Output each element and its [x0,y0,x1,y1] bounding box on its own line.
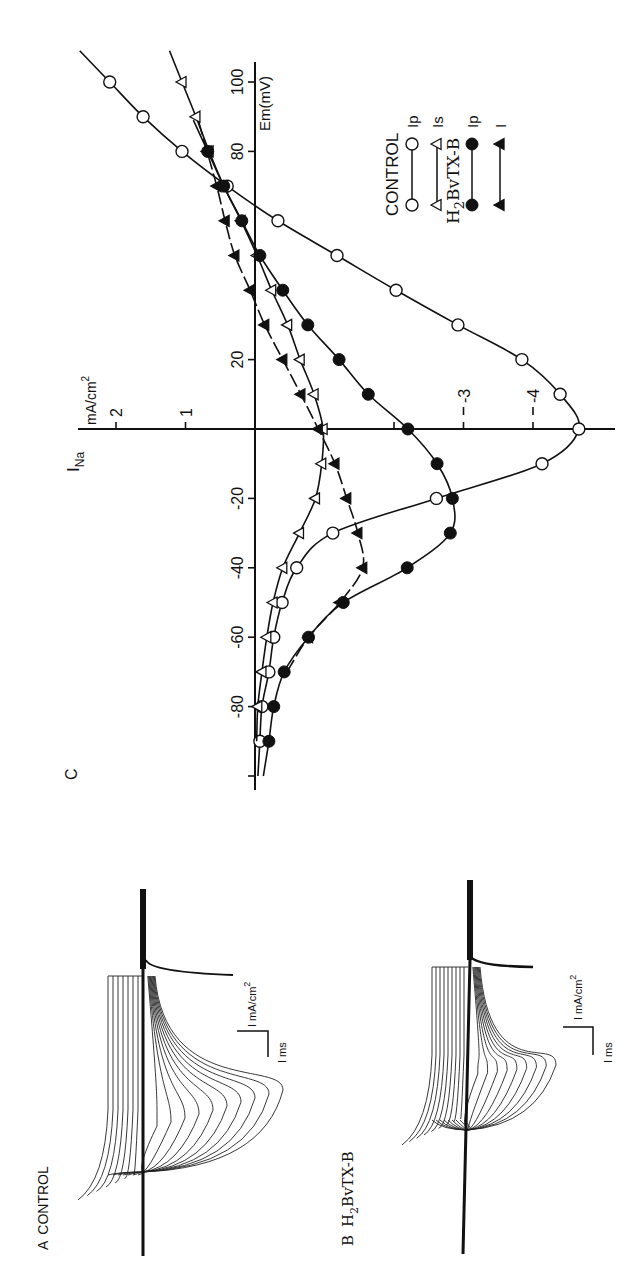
scale-current-label: I mA/cm2 [242,982,258,1027]
y-axis-label: INa [64,452,87,472]
panel-b-traces: I mA/cm2 I ms BH2BvTX-B [339,880,614,1254]
y-axis-units: mA/cm2 [80,375,99,425]
voltage-tick-label: -80 [229,695,246,718]
legend-label: I [492,124,509,128]
voltage-tick-label: -20 [229,487,246,510]
panel-a-traces: I mA/cm2 I ms ACONTROL [35,889,288,1256]
legend-item: I [492,124,509,211]
current-tick-label: -3 [456,389,473,403]
legend-label: Is [429,116,446,128]
legend: CONTROL H2BvTX-B IpIsIpI [383,115,509,224]
capacitive-transient [467,880,473,960]
panel-c-chart: -80-60-40-20208010021-3-4 INa mA/cm2 Em(… [63,51,615,790]
legend-group-toxin: H2BvTX-B [443,138,467,224]
panel-a-title: ACONTROL [35,1166,51,1250]
legend-item: Ip [464,115,481,211]
figure-canvas: -80-60-40-20208010021-3-4 INa mA/cm2 Em(… [0,0,631,1286]
capacitive-tail [146,960,233,975]
panel-c-letter: C [63,768,80,780]
series-filled-triangle [198,120,366,672]
current-traces-toxin [402,967,556,1145]
scale-time-label: I ms [276,1042,288,1063]
legend-group-control: CONTROL [383,133,402,216]
capacitive-tail [470,955,533,967]
axis-tick-labels: -80-60-40-20208010021-3-4 [108,69,542,719]
capacitive-transient [140,889,146,969]
voltage-tick-label: 100 [229,69,246,96]
current-tick-label: 1 [178,408,195,417]
current-tick-label: 2 [108,408,125,417]
legend-label: Ip [464,115,481,128]
voltage-tick-label: 20 [229,351,246,369]
current-tick-label: -4 [525,389,542,403]
scale-bar [237,1031,268,1057]
data-series [80,51,585,776]
scale-time-label: I ms [602,1042,614,1063]
voltage-tick-label: -60 [229,626,246,649]
voltage-tick-label: 80 [229,142,246,160]
x-axis-label: Em(mV) [256,76,273,131]
series-filled-circle [193,120,458,776]
scale-current-label: I mA/cm2 [568,975,584,1020]
panel-b-title: BH2BvTX-B [339,1151,361,1246]
scale-bar [563,1027,593,1055]
legend-label: Ip [404,115,421,128]
series-open-circle [80,51,585,776]
voltage-tick-label: -40 [229,556,246,579]
legend-item: Ip [404,115,421,211]
